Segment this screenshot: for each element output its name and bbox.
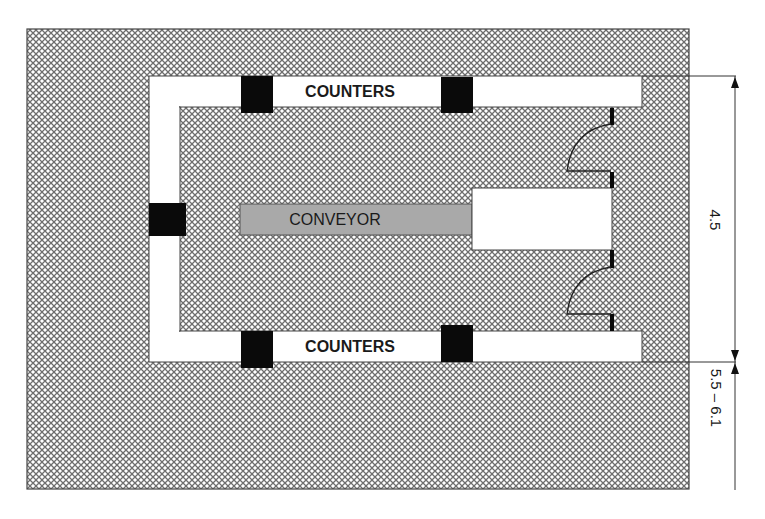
dimension-outer-width: 5.5 – 6.1 (708, 369, 725, 427)
black-block-left (149, 203, 186, 236)
arrow-down-icon (731, 350, 739, 361)
conveyor-label: CONVEYOR (289, 211, 381, 228)
bottom-counter-label: COUNTERS (305, 338, 395, 355)
bottom-counter (149, 331, 642, 362)
black-block-top-right (441, 77, 473, 113)
floor-plan-diagram: COUNTERS COUNTERS CONVEYOR 4.5 5.5 – 6.1 (0, 0, 765, 519)
black-block-bottom-right (441, 325, 473, 362)
top-counter-label: COUNTERS (305, 83, 395, 100)
black-block-top-left (241, 76, 273, 113)
conveyor-end-box (472, 188, 612, 250)
top-counter (149, 76, 642, 107)
arrow-up-icon (731, 363, 739, 374)
black-block-bottom-left (241, 331, 273, 368)
dimension-inner-width: 4.5 (707, 210, 724, 231)
arrow-up-icon (731, 77, 739, 88)
